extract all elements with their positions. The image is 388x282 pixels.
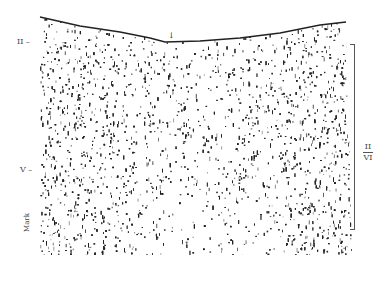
layer-range-label: II VI <box>360 143 376 163</box>
bracket-bottom-tick <box>350 229 355 230</box>
bottom-arrow-icon: ↑ <box>183 240 191 250</box>
range-top-text: II <box>365 142 371 151</box>
layer-range-bracket <box>354 44 355 230</box>
range-bottom-text: VI <box>364 153 373 162</box>
bracket-notch <box>354 150 358 153</box>
top-arrow-icon: ↓ <box>168 31 175 40</box>
pial-surface-line <box>40 17 346 42</box>
layer-ii-label: II – <box>17 38 30 46</box>
layer-v-label: V – <box>20 166 32 174</box>
mark-label: Mark <box>24 213 31 232</box>
cortex-micrograph: ↓ ↑ <box>0 0 388 282</box>
bracket-top-tick <box>350 44 355 45</box>
tissue-stipple <box>40 15 356 260</box>
